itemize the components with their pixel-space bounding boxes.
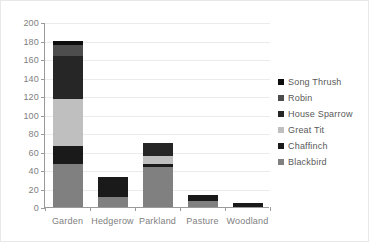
- y-axis-tick: [41, 79, 45, 80]
- bar-segment[interactable]: [98, 177, 128, 196]
- y-axis-tick-label: 200: [23, 18, 39, 28]
- bar-segment[interactable]: [188, 195, 218, 201]
- x-axis-label-parkland: Parkland: [139, 216, 176, 226]
- y-axis-tick-label: 120: [23, 92, 39, 102]
- bar-segment[interactable]: [53, 146, 83, 164]
- x-axis-label-hedgerow: Hedgerow: [91, 216, 134, 226]
- bar-segment[interactable]: [233, 203, 263, 207]
- chart-frame: 020406080100120140160180200GardenHedgero…: [0, 0, 369, 242]
- bar-segment[interactable]: [53, 41, 83, 46]
- x-axis-tick: [90, 207, 91, 211]
- legend-item[interactable]: Great Tit: [278, 125, 353, 135]
- legend-swatch-icon: [278, 127, 284, 133]
- legend-swatch-icon: [278, 79, 284, 85]
- x-axis-label-pasture: Pasture: [186, 216, 218, 226]
- y-axis-tick-label: 180: [23, 37, 39, 47]
- x-axis-tick: [225, 207, 226, 211]
- legend-swatch-icon: [278, 111, 284, 117]
- bar-segment[interactable]: [53, 56, 83, 99]
- legend-label: Robin: [288, 93, 313, 103]
- bar-segment[interactable]: [143, 167, 173, 207]
- bar-segment[interactable]: [188, 201, 218, 207]
- y-axis-tick-label: 160: [23, 55, 39, 65]
- legend-swatch-icon: [278, 159, 284, 165]
- bar-segment[interactable]: [143, 156, 173, 164]
- y-axis-tick-label: 40: [29, 166, 39, 176]
- legend-label: Chaffinch: [288, 141, 328, 151]
- chart-legend: Song ThrushRobinHouse SparrowGreat TitCh…: [278, 77, 353, 167]
- x-axis-label-woodland: Woodland: [227, 216, 269, 226]
- x-axis-tick: [135, 207, 136, 211]
- y-axis-tick: [41, 116, 45, 117]
- bar-group[interactable]: [98, 22, 128, 207]
- y-axis-tick-label: 140: [23, 74, 39, 84]
- bar-group[interactable]: [143, 22, 173, 207]
- bar-segment[interactable]: [98, 197, 128, 207]
- y-axis-tick-label: 80: [29, 129, 39, 139]
- y-axis-tick: [41, 171, 45, 172]
- legend-item[interactable]: Robin: [278, 93, 353, 103]
- y-axis-tick: [41, 97, 45, 98]
- bar-segment[interactable]: [53, 164, 83, 207]
- x-axis-tick: [180, 207, 181, 211]
- legend-item[interactable]: House Sparrow: [278, 109, 353, 119]
- bar-group[interactable]: [233, 22, 263, 207]
- legend-item[interactable]: Song Thrush: [278, 77, 353, 87]
- y-axis-tick: [41, 23, 45, 24]
- y-axis-tick: [41, 134, 45, 135]
- y-axis-tick-label: 0: [34, 203, 39, 213]
- legend-item[interactable]: Blackbird: [278, 157, 353, 167]
- bar-group[interactable]: [53, 22, 83, 207]
- bar-segment[interactable]: [143, 143, 173, 156]
- y-axis-tick-label: 100: [23, 111, 39, 121]
- bar-group[interactable]: [188, 22, 218, 207]
- legend-label: Great Tit: [288, 125, 324, 135]
- y-axis-tick-label: 60: [29, 148, 39, 158]
- legend-item[interactable]: Chaffinch: [278, 141, 353, 151]
- x-axis-label-garden: Garden: [52, 216, 83, 226]
- y-axis-tick-label: 20: [29, 185, 39, 195]
- y-axis-tick: [41, 60, 45, 61]
- legend-swatch-icon: [278, 143, 284, 149]
- x-axis-tick: [45, 207, 46, 211]
- y-axis-tick: [41, 153, 45, 154]
- y-axis-tick: [41, 190, 45, 191]
- x-axis-tick: [270, 207, 271, 211]
- bar-segment[interactable]: [143, 164, 173, 167]
- bar-segment[interactable]: [53, 45, 83, 56]
- legend-label: House Sparrow: [288, 109, 353, 119]
- legend-label: Blackbird: [288, 157, 327, 167]
- bar-segment[interactable]: [53, 99, 83, 146]
- legend-swatch-icon: [278, 95, 284, 101]
- y-axis-tick: [41, 42, 45, 43]
- plot-area: 020406080100120140160180200GardenHedgero…: [44, 23, 269, 208]
- legend-label: Song Thrush: [288, 77, 342, 87]
